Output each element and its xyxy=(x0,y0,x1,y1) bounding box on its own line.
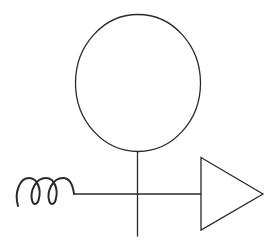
diagram-canvas xyxy=(0,0,278,245)
schematic-svg xyxy=(0,0,278,245)
circle-shape xyxy=(76,15,201,152)
coil-spring-icon xyxy=(17,178,74,206)
triangle-arrow-icon xyxy=(201,158,263,231)
